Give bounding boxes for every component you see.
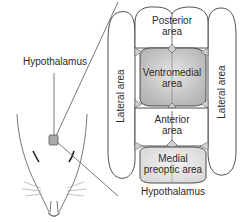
anterior-area-label: Anterior area — [140, 114, 204, 136]
medial-preoptic-area-label-line1: Medial — [138, 153, 208, 164]
hypothalamus-title-label: Hypothalamus — [138, 186, 208, 197]
lateral-area-right-label: Lateral area — [216, 57, 228, 127]
medial-preoptic-area-label: Medial preoptic area — [138, 153, 208, 175]
anterior-area-label-line1: Anterior — [140, 114, 204, 125]
hypothalamus-pointer-label: Hypothalamus — [22, 56, 88, 67]
medial-preoptic-area-label-line2: preoptic area — [138, 164, 208, 175]
hypothalamus-diagram: Hypothalamus Posterior area Ventromedial… — [0, 0, 241, 222]
rat-head-icon — [17, 114, 87, 216]
posterior-area-label-line1: Posterior — [140, 15, 204, 26]
hypothalamus-marker-icon — [49, 135, 58, 145]
ventromedial-area-label-line1: Ventromedial — [138, 67, 206, 78]
ventromedial-area-label: Ventromedial area — [138, 67, 206, 89]
posterior-area-label-line2: area — [140, 26, 204, 37]
lateral-area-left-label: Lateral area — [115, 61, 127, 131]
ventromedial-area-label-line2: area — [138, 78, 206, 89]
posterior-area-label: Posterior area — [140, 15, 204, 37]
anterior-area-label-line2: area — [140, 125, 204, 136]
